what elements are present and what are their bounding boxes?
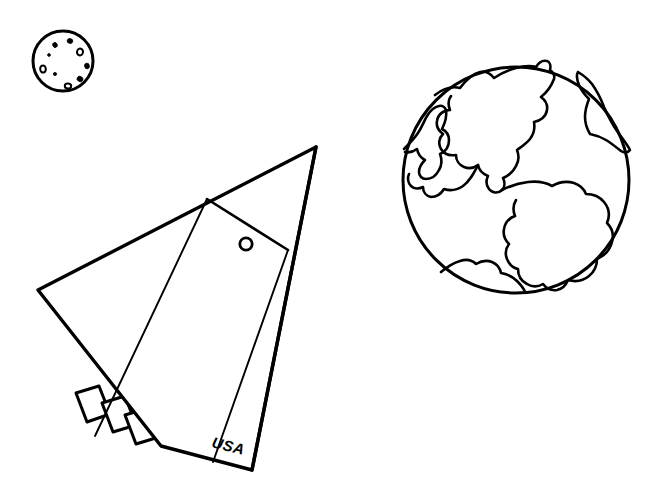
- space-scene-illustration: USA: [0, 0, 665, 495]
- moon-crater-9: [48, 54, 51, 57]
- moon-crater-6: [65, 83, 72, 89]
- moon-crater-7: [40, 65, 46, 73]
- coloring-page-canvas: USA: [0, 0, 665, 495]
- moon-outline: [33, 31, 93, 91]
- moon-group: [33, 31, 93, 91]
- moon-crater-3: [76, 48, 84, 56]
- moon-crater-8: [53, 72, 56, 75]
- earth-outline: [403, 67, 629, 293]
- porthole-window-icon: [240, 238, 252, 250]
- moon-crater-4: [84, 63, 90, 69]
- moon-crater-2: [67, 38, 73, 44]
